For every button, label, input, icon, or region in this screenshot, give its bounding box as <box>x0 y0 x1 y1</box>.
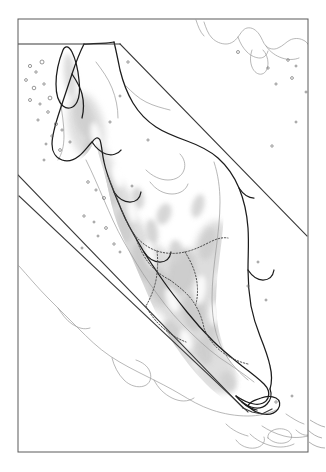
map-canvas[interactable] <box>0 0 326 472</box>
map-figure: Malay Peninsula outline map Peninsular M… <box>0 0 326 472</box>
